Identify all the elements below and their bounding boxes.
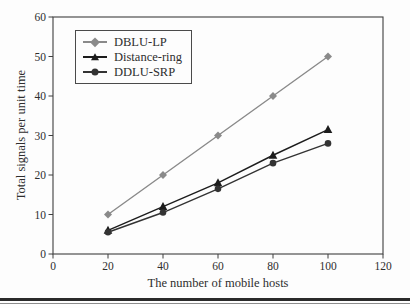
data-point-ddlu-srp xyxy=(325,140,332,147)
y-tick-label: 30 xyxy=(35,130,47,142)
y-tick-label: 10 xyxy=(35,209,47,221)
figure-bottom-rule xyxy=(0,298,410,301)
y-tick-label: 50 xyxy=(35,51,47,63)
chart-legend: DBLU-LPDistance-ringDDLU-SRP xyxy=(75,30,192,84)
data-point-distance-ring xyxy=(214,178,223,186)
legend-item-dblu-lp: DBLU-LP xyxy=(83,35,182,49)
figure-bottom-rule-shadow xyxy=(0,303,410,304)
figure-line-chart: 0204060801001200102030405060 DBLU-LPDist… xyxy=(0,0,410,308)
legend-item-ddlu-srp: DDLU-SRP xyxy=(83,65,182,79)
x-tick-label: 120 xyxy=(374,260,392,272)
legend-label: Distance-ring xyxy=(114,50,182,64)
y-axis-title: Total signals per unit time xyxy=(14,70,29,200)
diamond-marker-icon xyxy=(83,37,107,47)
y-tick-label: 40 xyxy=(35,90,47,102)
circle-marker-icon xyxy=(83,67,107,77)
legend-label: DBLU-LP xyxy=(114,35,167,49)
x-axis-title: The number of mobile hosts xyxy=(148,276,289,291)
data-point-distance-ring xyxy=(324,125,333,133)
y-tick-label: 0 xyxy=(40,248,46,260)
chart-plot-area: 0204060801001200102030405060 xyxy=(0,0,410,308)
legend-label: DDLU-SRP xyxy=(114,65,175,79)
x-tick-label: 100 xyxy=(319,260,337,272)
x-tick-label: 60 xyxy=(212,260,224,272)
y-tick-label: 20 xyxy=(35,169,47,181)
data-point-ddlu-srp xyxy=(270,160,277,167)
x-tick-label: 0 xyxy=(50,260,56,272)
y-tick-label: 60 xyxy=(35,11,47,23)
x-tick-label: 40 xyxy=(157,260,169,272)
x-tick-label: 80 xyxy=(267,260,279,272)
data-point-ddlu-srp xyxy=(160,209,167,216)
triangle-marker-icon xyxy=(83,52,107,62)
data-point-distance-ring xyxy=(269,151,278,159)
data-point-ddlu-srp xyxy=(215,186,222,193)
data-point-ddlu-srp xyxy=(105,229,112,236)
x-tick-label: 20 xyxy=(102,260,114,272)
legend-item-distance-ring: Distance-ring xyxy=(83,50,182,64)
